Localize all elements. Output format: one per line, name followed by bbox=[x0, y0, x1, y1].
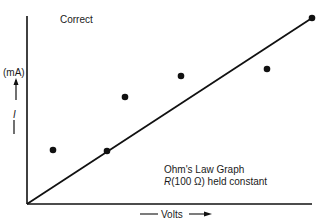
data-point bbox=[50, 147, 57, 154]
data-point bbox=[178, 73, 185, 80]
chart-title: Correct bbox=[60, 14, 93, 25]
y-arrow-head-icon bbox=[14, 78, 19, 85]
data-point bbox=[122, 94, 129, 101]
x-arrow-head-icon bbox=[204, 212, 212, 217]
x-axis-label: Volts bbox=[161, 209, 183, 220]
annotation-condition: R(100 Ω) held constant bbox=[164, 176, 267, 187]
y-axis-unit-label: (mA) bbox=[3, 67, 25, 78]
ohms-law-plot bbox=[0, 0, 317, 223]
data-point bbox=[309, 15, 316, 22]
data-point bbox=[264, 66, 271, 73]
y-axis-symbol-label: I bbox=[13, 109, 16, 120]
annotation-title: Ohm's Law Graph bbox=[164, 164, 244, 175]
resistance-text: (100 Ω) held constant bbox=[171, 176, 267, 187]
data-point bbox=[104, 148, 111, 155]
data-points bbox=[50, 15, 316, 155]
